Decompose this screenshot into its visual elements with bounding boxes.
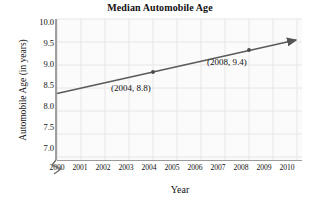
data-point-annotation: (2004, 8.8) — [111, 83, 151, 93]
data-point-annotation: (2008, 9.4) — [207, 57, 247, 67]
data-point-marker — [151, 70, 155, 74]
plot-area — [0, 0, 320, 206]
plot-background — [57, 19, 302, 160]
data-point-marker — [247, 48, 251, 52]
chart-figure: Median Automobile Age Automobile Age (in… — [0, 0, 320, 206]
y-axis-break-icon — [52, 160, 61, 174]
